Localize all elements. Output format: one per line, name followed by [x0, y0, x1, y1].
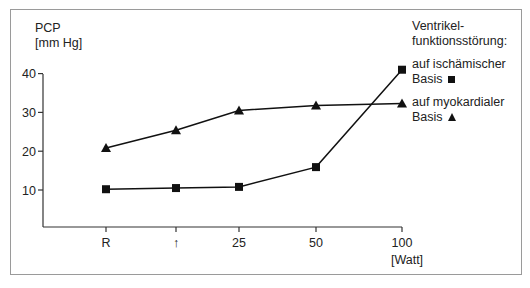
y-axis-label-line1: PCP	[35, 21, 61, 36]
y-tick-label: 20	[22, 145, 36, 159]
x-tick-label: R	[101, 236, 110, 250]
x-tick-label: ↑	[173, 236, 179, 250]
legend-title-line2: funktionsstörung:	[412, 34, 507, 49]
square-marker-icon	[448, 76, 455, 83]
x-tick-label: 25	[232, 236, 246, 250]
y-tick-label: 40	[22, 67, 36, 81]
legend-myocardial-text: Basis	[412, 110, 443, 124]
square-marker-icon	[312, 163, 320, 171]
legend-myocardial-line2: Basis	[412, 110, 456, 125]
x-tick-label: 100	[392, 236, 413, 250]
square-marker-icon	[235, 183, 243, 191]
x-axis-label: [Watt]	[391, 253, 423, 267]
y-axis-label-line2: [mm Hg]	[35, 36, 82, 51]
square-marker-icon	[398, 66, 406, 74]
y-tick-label: 30	[22, 106, 36, 120]
legend-myocardial-line1: auf myokardialer	[412, 95, 504, 110]
series-line	[106, 70, 402, 190]
series-line	[106, 103, 402, 148]
legend-title-line1: Ventrikel-	[412, 19, 464, 34]
y-tick-label: 10	[22, 184, 36, 198]
axis-labels: 10203040R↑2550100[Watt]	[22, 67, 423, 267]
legend-ischemic-line2: Basis	[412, 72, 455, 87]
square-marker-icon	[172, 184, 180, 192]
series-lines	[101, 66, 407, 194]
square-marker-icon	[102, 185, 110, 193]
triangle-marker-icon	[448, 113, 456, 121]
x-tick-label: 50	[309, 236, 323, 250]
axes	[38, 74, 402, 232]
legend-ischemic-text: Basis	[412, 72, 443, 86]
legend-ischemic-line1: auf ischämischer	[412, 57, 506, 72]
